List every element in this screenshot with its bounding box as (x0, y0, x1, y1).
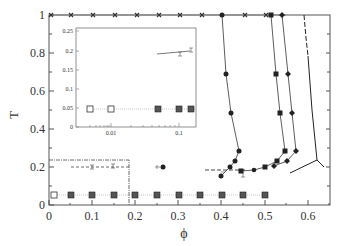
y-tick-label: 0.8 (30, 46, 45, 60)
x-tick-label: 0.4 (214, 209, 229, 223)
y-tick-label: 0.6 (30, 84, 45, 98)
inset-y-tick-label: 0.05 (63, 105, 74, 111)
series-curve-squares (239, 13, 288, 174)
series-bottom-squares (51, 192, 268, 198)
inset-y-tick-label: 0.15 (63, 67, 74, 73)
y-tick-label: 0 (39, 198, 45, 212)
inset-y-tick-label: 0.2 (66, 48, 74, 54)
inset-y-tick-label: 0.1 (66, 86, 74, 92)
x-tick-label: 0.1 (85, 209, 100, 223)
inset-x-tick-label: 0.1 (175, 130, 183, 136)
x-axis-label: ϕ (180, 226, 187, 241)
series-curve-diamonds (271, 12, 299, 169)
inset-x-tick-label: 0.01 (106, 130, 117, 136)
x-tick-label: 0 (46, 209, 52, 223)
x-tick-labels: 0 0.1 0.2 0.3 0.4 0.5 0.6 (46, 209, 316, 223)
inset-filled-square (155, 106, 161, 112)
inset-open-square (87, 106, 93, 112)
x-tick-label: 0.2 (128, 209, 143, 223)
inset-filled-square (188, 106, 194, 112)
inset-y-tick-label: 0.25 (63, 28, 74, 34)
x-axis (49, 200, 329, 205)
inset-open-square (108, 106, 114, 112)
y-tick-label: 0.2 (30, 160, 45, 174)
inset-y-tick-label: 0 (70, 124, 73, 130)
x-tick-label: 0.5 (258, 209, 273, 223)
series-curve-circles (219, 13, 242, 179)
y-tick-label: 0.4 (30, 122, 45, 136)
x-tick-label: 0.6 (301, 209, 316, 223)
isolated-point (155, 165, 166, 170)
phase-diagram-chart: 0 0.1 0.2 0.3 0.4 0.5 0.6 ϕ 0 0.2 0.4 0.… (0, 0, 340, 246)
y-tick-label: 1 (39, 8, 45, 22)
inset-plot: 0 0.05 0.1 0.15 0.2 0.25 0.01 0.1 (63, 28, 197, 136)
y-tick-labels: 0 0.2 0.4 0.6 0.8 1 (30, 8, 45, 212)
y-axis-label: T (6, 111, 21, 119)
x-tick-label: 0.3 (171, 209, 186, 223)
series-top-crosses (49, 13, 286, 17)
inset-filled-square (176, 106, 182, 112)
